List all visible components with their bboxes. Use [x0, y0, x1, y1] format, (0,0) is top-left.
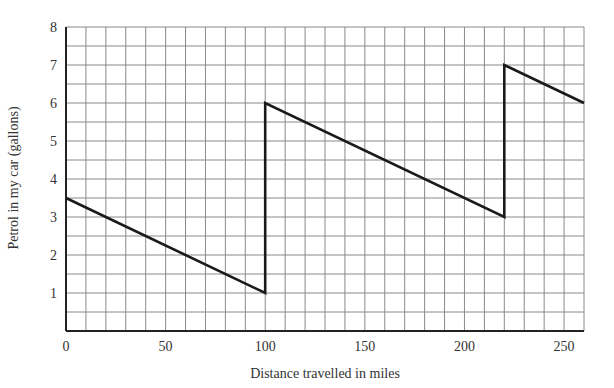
x-tick-label: 250 — [554, 339, 575, 354]
x-tick-label: 50 — [159, 339, 173, 354]
x-tick-label: 100 — [255, 339, 276, 354]
x-axis-title: Distance travelled in miles — [250, 366, 400, 381]
y-tick-label: 1 — [50, 286, 57, 301]
y-tick-label: 3 — [50, 210, 57, 225]
y-tick-label: 8 — [50, 20, 57, 35]
y-axis-title: Petrol in my car (gallons) — [6, 106, 22, 249]
x-tick-label: 0 — [63, 339, 70, 354]
y-tick-label: 5 — [50, 134, 57, 149]
tick-labels: 05010015020025012345678 — [50, 20, 575, 354]
grid-lines — [66, 27, 584, 331]
y-tick-label: 2 — [50, 248, 57, 263]
y-tick-label: 7 — [50, 58, 57, 73]
petrol-chart: 05010015020025012345678 Distance travell… — [0, 0, 614, 388]
x-tick-label: 150 — [354, 339, 375, 354]
x-tick-label: 200 — [454, 339, 475, 354]
y-tick-label: 4 — [50, 172, 57, 187]
y-tick-label: 6 — [50, 96, 57, 111]
